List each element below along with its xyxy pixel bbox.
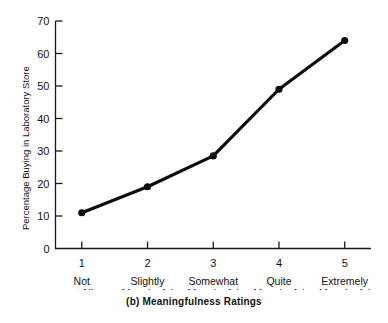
data-point <box>78 209 85 216</box>
y-tick-label: 0 <box>43 243 49 255</box>
data-series-line <box>82 41 345 213</box>
y-tick-label: 10 <box>37 210 49 222</box>
data-point <box>275 86 282 93</box>
x-category-label-line: Meaningful <box>319 287 370 291</box>
data-point <box>210 152 217 159</box>
y-tick-label: 70 <box>37 15 49 27</box>
figure-caption: (b) Meaningfulness Ratings <box>0 296 388 307</box>
x-axis-ticks <box>82 242 345 249</box>
x-category-number: 1 <box>79 257 85 269</box>
y-tick-label: 20 <box>37 178 49 190</box>
chart-plot-area: Percentage Buying in Laboratory Store 01… <box>0 0 388 290</box>
series-polyline <box>82 41 345 213</box>
y-tick-label: 50 <box>37 80 49 92</box>
x-category-label-line: Not <box>74 275 90 287</box>
x-category-label-line: Somewhat <box>188 275 238 287</box>
data-point <box>341 37 348 44</box>
x-category-label-line: Meaningful <box>253 287 304 291</box>
figure-container: Percentage Buying in Laboratory Store 01… <box>0 0 388 323</box>
y-axis-label: Percentage Buying in Laboratory Store <box>20 66 31 230</box>
x-category-label-line: Quite <box>266 275 291 287</box>
x-category-number: 5 <box>342 257 348 269</box>
x-category-number: 3 <box>210 257 216 269</box>
x-category-label-line: Extremely <box>321 275 368 287</box>
line-chart-svg: Percentage Buying in Laboratory Store 01… <box>0 0 388 290</box>
x-axis-category-labels: 1Notat AllMeaningful2SlightlyMeaningful3… <box>56 257 370 291</box>
x-category-number: 4 <box>276 257 282 269</box>
data-series-points <box>78 37 348 216</box>
y-axis-label-text: Percentage Buying in Laboratory Store <box>20 66 31 230</box>
x-category-label-line: Meaningful <box>188 287 239 291</box>
x-category-label-line: Meaningful <box>122 287 173 291</box>
y-tick-label: 60 <box>37 48 49 60</box>
x-category-label-line: Slightly <box>131 275 166 287</box>
x-category-label-line: at All <box>70 287 93 291</box>
y-axis-ticks: 010203040506070 <box>37 15 62 255</box>
x-category-number: 2 <box>144 257 150 269</box>
data-point <box>144 183 151 190</box>
y-tick-label: 40 <box>37 113 49 125</box>
y-tick-label: 30 <box>37 145 49 157</box>
